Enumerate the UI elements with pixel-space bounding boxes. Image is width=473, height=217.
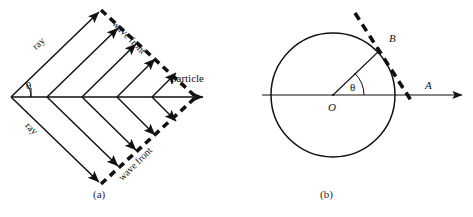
wave-front-line-bottom bbox=[101, 97, 196, 184]
figure-container: ray ray wave front wave front particle θ… bbox=[0, 0, 473, 217]
ray-arrow-up-1 bbox=[11, 12, 99, 97]
center-point-O bbox=[332, 94, 334, 96]
ray-arrow-down-4 bbox=[117, 97, 155, 135]
caption-panel-a: (a) bbox=[93, 188, 105, 200]
label-point-A: A bbox=[425, 79, 432, 91]
ray-arrow-up-2 bbox=[47, 28, 118, 97]
label-theta-panel-a: θ bbox=[26, 79, 31, 91]
ray-arrow-down-2 bbox=[47, 97, 118, 166]
label-theta-panel-b: θ bbox=[350, 81, 355, 93]
theta-arc-b bbox=[355, 73, 365, 95]
ray-arrow-down-1 bbox=[11, 97, 99, 182]
caption-panel-b: (b) bbox=[320, 188, 333, 200]
ray-arrow-up-3 bbox=[82, 44, 136, 97]
figure-svg bbox=[0, 0, 473, 217]
label-point-O: O bbox=[328, 101, 336, 113]
label-point-B: B bbox=[389, 32, 396, 44]
ray-arrow-up-4 bbox=[117, 59, 155, 97]
label-particle: particle bbox=[171, 72, 204, 84]
panel-b-circle bbox=[262, 13, 462, 157]
ray-arrow-down-3 bbox=[82, 97, 136, 150]
